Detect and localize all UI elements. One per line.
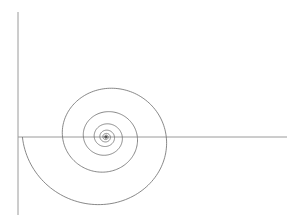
- spiral-diagram: [0, 0, 299, 221]
- logarithmic-spiral-curve: [22, 88, 166, 204]
